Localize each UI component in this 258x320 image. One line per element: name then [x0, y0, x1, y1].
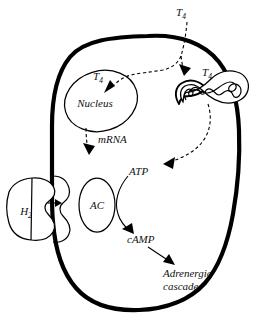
- t4-cell-signaling-diagram: T4 T4 Nucleus T4 mRNA ATP cAMP AC H2 Adr…: [0, 0, 258, 320]
- label-mrna: mRNA: [98, 133, 127, 145]
- t4-extracellular-subscript: 4: [182, 12, 186, 21]
- t4-nucleus-subscript: 4: [99, 76, 103, 85]
- h2-subscript: 2: [28, 211, 32, 220]
- label-atp: ATP: [128, 165, 148, 177]
- label-t4-extracellular: T4: [176, 6, 186, 21]
- label-nucleus: Nucleus: [76, 97, 112, 109]
- diagram-canvas: T4 T4 Nucleus T4 mRNA ATP cAMP AC H2 Adr…: [0, 0, 258, 320]
- label-adenylate-cyclase: AC: [89, 199, 105, 211]
- label-adrenergic-cascade-line2: cascade: [163, 280, 199, 292]
- t4-mitochondrion-subscript: 4: [208, 72, 212, 81]
- label-adrenergic-cascade-line1: Adrenergic: [162, 267, 212, 279]
- label-camp: cAMP: [127, 233, 155, 245]
